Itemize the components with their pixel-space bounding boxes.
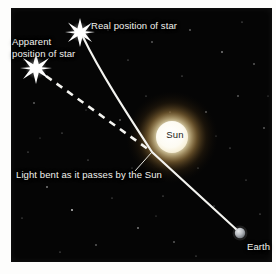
apparent-position-label-line2: position of star [12,48,75,59]
starlight-deflection-figure: Real position of star Apparent position … [0,0,276,274]
earth-sphere [235,228,245,238]
light-bent-label: Light bent as it passes by the Sun [16,169,162,181]
apparent-position-label: Apparent position of star [12,36,75,59]
real-position-label: Real position of star [91,20,177,32]
earth-label: Earth [247,241,270,253]
sun-label: Sun [160,129,190,140]
apparent-position-label-line1: Apparent [12,36,51,47]
